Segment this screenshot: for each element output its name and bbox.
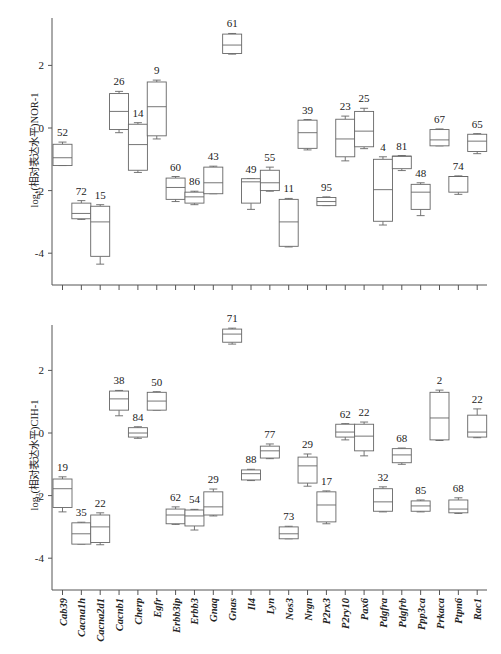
category-label: Egfr [152,597,163,619]
sample-count-label: 85 [415,484,427,496]
box-ppp3ca: 48 [411,167,430,216]
box-ptpn6: 68 [449,482,468,514]
box-pax6: 25 [355,92,374,148]
box-erbb3: 86 [185,175,204,204]
box-prkaca: 67 [430,113,449,146]
category-label: Il4 [246,598,257,611]
box-gnas: 61 [223,17,242,54]
category-label: Prkaca [435,598,446,629]
box-nos3: 73 [279,510,298,539]
box-nrgn: 29 [298,438,317,486]
sample-count-label: 62 [340,408,351,420]
sample-count-label: 11 [283,182,294,194]
box-ptpn6: 74 [449,160,468,194]
sample-count-label: 2 [437,374,443,386]
category-label: Nrgn [303,598,314,622]
gene-category-labels: Cab39Cacna1hCacna2d1Cacnb1CherpEgfrErbb3… [58,597,484,642]
category-label: Erbb3 [189,598,200,626]
category-label: Lyn [265,598,276,616]
sample-count-label: 67 [434,113,446,125]
sample-count-label: 86 [189,175,201,187]
category-label: Erbb3ip [171,598,182,634]
box-egfr: 9 [147,64,166,139]
box-p2ry10: 62 [336,408,355,440]
box-lyn: 55 [260,151,279,191]
sample-count-label: 61 [227,17,238,29]
sample-count-label: 95 [321,181,333,193]
y-tick-label: 2 [39,59,45,71]
top-panel-nor1: 20-2-4log₂(相对表达水平)NOR-152721526149608643… [28,17,487,290]
sample-count-label: 65 [472,118,484,130]
box-p2rx3: 17 [317,475,336,524]
sample-count-label: 15 [95,189,107,201]
box-gnas: 71 [223,312,242,344]
sample-count-label: 60 [170,161,182,173]
box-pdgfra: 4 [373,141,392,225]
box-cherp: 84 [128,411,147,439]
category-label: P2ry10 [340,597,351,629]
box-il4: 88 [242,453,261,480]
sample-count-label: 71 [227,312,238,324]
sample-count-label: 39 [302,104,314,116]
box-rac1: 22 [468,393,487,438]
sample-count-label: 72 [76,185,87,197]
box-lyn: 77 [260,428,279,459]
category-label: Cab39 [58,597,69,626]
category-label: Pax6 [359,597,370,620]
category-label: Cacnb1 [114,598,125,631]
box-p2ry10: 23 [336,100,355,161]
y-axis-title: log₂(相对表达水平)CIH-1 [28,400,41,511]
category-label: Ppp3ca [416,598,427,630]
sample-count-label: 77 [264,428,276,440]
box-pax6: 22 [355,406,374,456]
box-cacnb1: 26 [110,75,129,132]
box-cacna2d1: 15 [91,189,110,264]
sample-count-label: 32 [377,471,388,483]
box-pdgfrb: 68 [392,432,411,464]
sample-count-label: 43 [208,150,220,162]
sample-count-label: 4 [380,141,386,153]
box-p2rx3: 95 [317,181,336,206]
box-pdgfra: 32 [373,471,392,512]
box-cacna1h: 35 [72,506,91,544]
box-nrgn: 39 [298,104,317,150]
box-rac1: 65 [468,118,487,154]
sample-count-label: 22 [472,393,483,405]
box-prkaca: 2 [430,374,449,440]
y-tick-label: -4 [35,247,45,259]
box-gnaq: 43 [204,150,223,194]
sample-count-label: 38 [114,374,126,386]
box-cacna2d1: 22 [91,497,110,545]
sample-count-label: 88 [246,453,258,465]
sample-count-label: 54 [189,493,201,505]
sample-count-label: 68 [453,482,465,494]
sample-count-label: 29 [302,438,314,450]
box-cacnb1: 38 [110,374,129,415]
sample-count-label: 84 [132,411,144,423]
sample-count-label: 25 [359,92,371,104]
box-cacna1h: 72 [72,185,91,220]
sample-count-label: 26 [114,75,126,87]
box-erbb3ip: 60 [166,161,185,202]
sample-count-label: 62 [170,491,181,503]
category-label: Pdgfra [378,598,389,628]
box-erbb3ip: 62 [166,491,185,525]
sample-count-label: 74 [453,160,465,172]
box-nos3: 11 [279,182,298,247]
sample-count-label: 23 [340,100,352,112]
category-label: Nos3 [284,598,295,621]
y-tick-label: 2 [39,364,45,376]
sample-count-label: 9 [154,64,160,76]
sample-count-label: 73 [283,510,295,522]
sample-count-label: 55 [264,151,276,163]
box-gnaq: 29 [204,473,223,516]
sample-count-label: 14 [132,107,144,119]
box-cab39: 19 [53,461,72,512]
category-label: Cherp [133,598,144,625]
box-egfr: 50 [147,376,166,410]
bottom-panel-cih1: 20-2-4log₂(相对表达水平)CIH-119352238845062542… [28,312,487,595]
category-label: Rac1 [472,598,483,621]
box-il4: 49 [242,163,261,210]
sample-count-label: 22 [95,497,106,509]
box-cab39: 52 [53,126,72,165]
